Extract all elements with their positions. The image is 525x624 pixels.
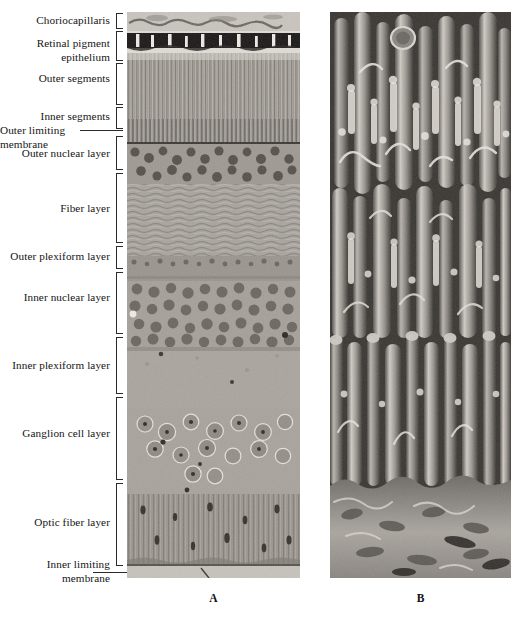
label-outer-plexiform-layer: Outer plexiform layer (0, 250, 110, 264)
panel-b-micrograph (330, 12, 511, 578)
bracket-ganglion-cell-layer (116, 397, 123, 480)
bracket-outer-nuclear-layer (116, 136, 123, 170)
bracket-optic-fiber-layer (116, 483, 123, 566)
label-optic-fiber-layer: Optic fiber layer (0, 516, 110, 530)
panel-a-micrograph (127, 12, 300, 578)
bracket-inner-nuclear-layer (116, 272, 123, 334)
label-fiber-layer: Fiber layer (0, 202, 110, 216)
label-inner-nuclear-layer: Inner nuclear layer (0, 291, 110, 305)
leader-outer-limiting-membrane (80, 130, 123, 131)
bracket-inner-plexiform-layer (116, 337, 123, 394)
bracket-outer-plexiform-layer (116, 246, 123, 269)
bracket-retinal-pigment-epithelium (116, 31, 123, 61)
leader-inner-limiting-membrane (93, 572, 127, 573)
bracket-outer-segments (116, 63, 123, 105)
bracket-choriocapillaris (116, 13, 123, 29)
label-ganglion-cell-layer: Ganglion cell layer (0, 427, 110, 441)
label-retinal-pigment-epithelium: Retinal pigment epithelium (0, 37, 110, 64)
retina-histology-figure: Choriocapillaris Retinal pigment epithel… (0, 0, 525, 624)
label-choriocapillaris: Choriocapillaris (0, 14, 110, 28)
panel-caption-b: B (330, 592, 511, 604)
label-outer-nuclear-layer: Outer nuclear layer (0, 147, 110, 161)
label-inner-plexiform-layer: Inner plexiform layer (0, 359, 110, 373)
bracket-inner-segments (116, 107, 123, 129)
label-inner-segments: Inner segments (0, 110, 110, 124)
label-outer-segments: Outer segments (0, 72, 110, 86)
panel-caption-a: A (127, 592, 300, 604)
bracket-fiber-layer (116, 173, 123, 243)
